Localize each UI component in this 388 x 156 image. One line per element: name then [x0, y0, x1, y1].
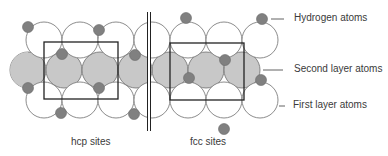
legend-hydrogen-atoms: Hydrogen atoms: [294, 12, 367, 23]
legend-first-layer-atoms: First layer atoms: [293, 99, 367, 110]
hcp-sites-label: hcp sites: [71, 136, 110, 147]
panel-divider: [148, 12, 151, 131]
fcc-sites-label: fcc sites: [190, 136, 226, 147]
hcp-panel: [10, 22, 170, 120]
legend-second-layer-atoms: Second layer atoms: [294, 63, 382, 74]
adsorption-site-diagram: [0, 0, 388, 156]
